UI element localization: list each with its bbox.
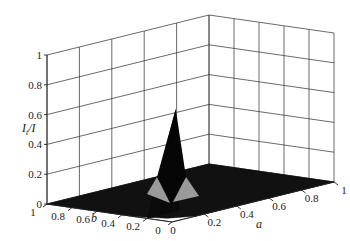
z-axis-label: It/I <box>21 121 37 137</box>
svg-text:0.6: 0.6 <box>28 109 42 121</box>
svg-text:0.8: 0.8 <box>28 79 42 91</box>
svg-text:0: 0 <box>155 224 161 236</box>
svg-text:0: 0 <box>170 224 176 236</box>
svg-text:0.4: 0.4 <box>28 138 42 150</box>
svg-text:0.4: 0.4 <box>240 208 254 220</box>
svg-text:1: 1 <box>341 184 347 196</box>
svg-text:0.6: 0.6 <box>272 200 286 212</box>
svg-text:0.6: 0.6 <box>76 213 90 225</box>
svg-text:0.8: 0.8 <box>51 210 65 222</box>
svg-text:0.4: 0.4 <box>101 217 115 229</box>
svg-text:0.2: 0.2 <box>28 168 42 180</box>
y-axis-label: b <box>91 211 97 225</box>
surface-plot: 00.20.40.60.8100.20.40.60.8100.20.40.60.… <box>0 0 350 241</box>
svg-text:0.2: 0.2 <box>208 216 222 228</box>
svg-text:0.8: 0.8 <box>305 192 319 204</box>
svg-text:0.2: 0.2 <box>126 220 140 232</box>
svg-text:1: 1 <box>30 206 36 218</box>
svg-text:1: 1 <box>37 49 43 61</box>
svg-text:0: 0 <box>37 198 43 210</box>
x-axis-label: a <box>256 217 262 231</box>
